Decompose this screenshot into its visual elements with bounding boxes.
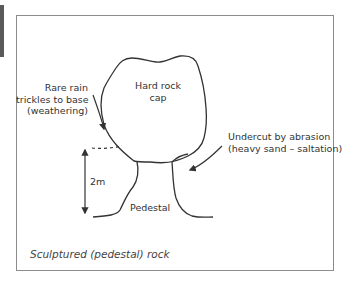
rain-label-line-2: trickles to base: [16, 94, 88, 106]
cap-label-line-1: Hard rock: [128, 80, 188, 92]
pedestal-label: Pedestal: [130, 202, 170, 214]
abrasion-label: Undercut by abrasion (heavy sand – salta…: [228, 131, 342, 154]
rain-arrow-icon: [93, 95, 104, 129]
cap-label-line-2: cap: [128, 92, 188, 104]
weathering-dashed-line: [92, 146, 122, 148]
abrasion-arrow-icon: [190, 146, 222, 170]
height-label: 2m: [90, 176, 105, 188]
figure-caption: Sculptured (pedestal) rock: [30, 248, 170, 260]
cap-label: Hard rock cap: [128, 80, 188, 103]
rain-label: Rare rain trickles to base (weathering): [16, 82, 88, 117]
rain-label-line-3: (weathering): [16, 105, 88, 117]
abrasion-label-line-2: (heavy sand – saltation): [228, 143, 342, 155]
abrasion-label-line-1: Undercut by abrasion: [228, 131, 342, 143]
pedestal-right-outline: [172, 162, 213, 217]
rain-label-line-1: Rare rain: [16, 82, 88, 94]
